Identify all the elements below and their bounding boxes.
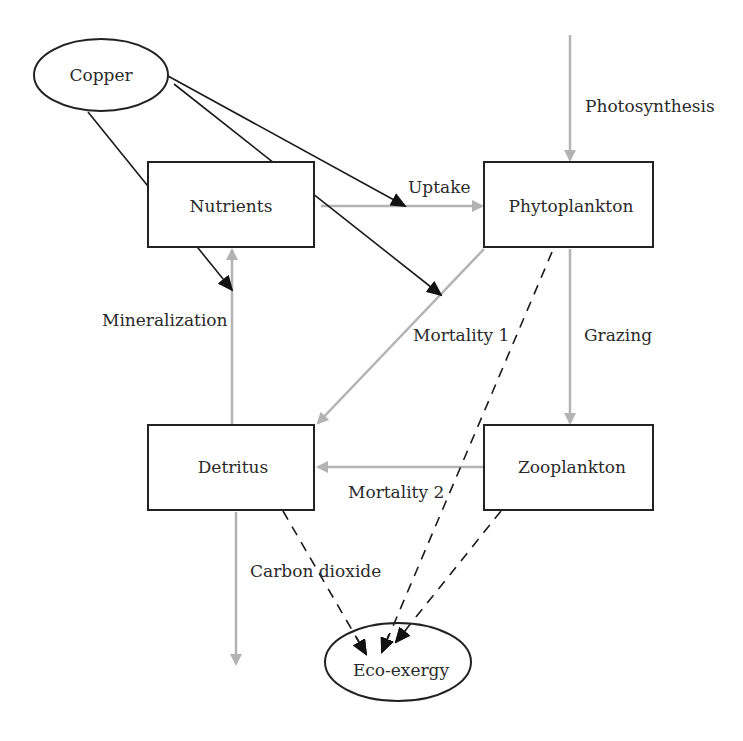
dashed-detritus-to-eco-exergy xyxy=(283,511,366,654)
node-copper: Copper xyxy=(34,39,168,111)
node-phytoplankton: Phytoplankton xyxy=(484,162,653,247)
node-detritus: Detritus xyxy=(148,425,314,510)
nutrients-label: Nutrients xyxy=(190,196,273,216)
detritus-label: Detritus xyxy=(198,457,269,477)
eco-exergy-arrowheads xyxy=(356,630,406,654)
label-carbon-dioxide: Carbon dioxide xyxy=(250,561,381,581)
node-zooplankton: Zooplankton xyxy=(484,425,653,510)
label-grazing: Grazing xyxy=(584,325,652,345)
zooplankton-label: Zooplankton xyxy=(518,457,626,477)
eco-exergy-label: Eco-exergy xyxy=(353,660,450,680)
copper-label: Copper xyxy=(69,65,133,85)
node-eco-exergy: Eco-exergy xyxy=(325,623,471,701)
label-mortality-1: Mortality 1 xyxy=(413,325,509,345)
ecosystem-diagram: Copper Nutrients Phytoplankton Detritus … xyxy=(0,0,743,741)
label-mortality-2: Mortality 2 xyxy=(348,482,444,502)
phytoplankton-label: Phytoplankton xyxy=(509,196,634,216)
label-photosynthesis: Photosynthesis xyxy=(585,96,715,116)
label-uptake: Uptake xyxy=(408,177,471,197)
dashed-zooplankton-to-eco-exergy xyxy=(396,511,501,642)
label-mineralization: Mineralization xyxy=(102,310,228,330)
node-nutrients: Nutrients xyxy=(148,162,314,247)
